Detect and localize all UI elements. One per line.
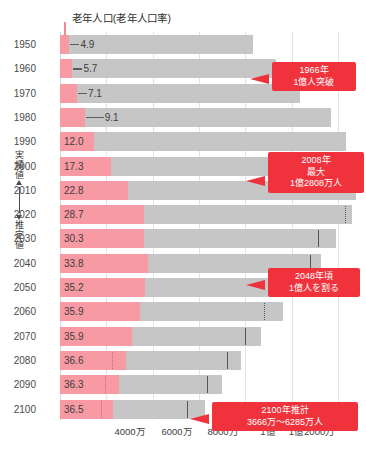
uncertainty-marker (264, 303, 266, 320)
y-axis-year-label: 1960 (2, 59, 36, 78)
annotation-callout[interactable]: 2048年頃1億人を割る (268, 268, 360, 297)
annotation-callout-line: 2008年 (274, 155, 358, 167)
elderly-rate-value: 30.3 (64, 229, 83, 248)
elderly-rate-value: 33.8 (64, 254, 83, 273)
uncertainty-marker-secondary (112, 352, 114, 369)
elderly-rate-value: 5.7 (83, 59, 97, 78)
y-axis-year-label: 2090 (2, 375, 36, 394)
value-leader-line (86, 117, 104, 118)
value-leader-line (78, 93, 87, 94)
chart-title: 老年人口(老年人口率) (72, 10, 171, 25)
annotation-callout-line: 1億2808万人 (274, 178, 358, 190)
y-axis-year-label: 2060 (2, 302, 36, 321)
uncertainty-marker (187, 401, 189, 418)
annotation-callout-pointer (246, 176, 265, 186)
annotation-callout-line: 最大 (274, 167, 358, 179)
other-population-segment (132, 327, 261, 346)
chart-row: 19504.9 (60, 35, 366, 54)
annotation-callout[interactable]: 2100年推計3666万～6285万人 (212, 402, 358, 431)
bar-group[interactable] (60, 327, 261, 346)
uncertainty-marker-secondary (105, 376, 107, 393)
other-population-segment (77, 84, 300, 103)
elderly-rate-value: 35.9 (64, 302, 83, 321)
bar-group[interactable] (60, 375, 222, 394)
elderly-population-segment (60, 59, 72, 78)
other-population-segment (94, 132, 346, 151)
bar-group[interactable] (60, 302, 283, 321)
annotation-callout-line: 1億人を割る (274, 283, 354, 295)
y-axis-year-label: 2010 (2, 181, 36, 200)
other-population-segment (140, 302, 283, 321)
y-axis-year-label: 1970 (2, 84, 36, 103)
annotation-callout-pointer (246, 280, 265, 290)
chart-row: 199012.0 (60, 132, 366, 151)
elderly-rate-value: 17.3 (64, 157, 83, 176)
elderly-rate-value: 36.5 (64, 400, 83, 419)
other-population-segment (85, 108, 331, 127)
elderly-rate-value: 9.1 (105, 108, 119, 127)
chart-row: 206035.9 (60, 302, 366, 321)
bar-group[interactable] (60, 351, 241, 370)
uncertainty-marker-secondary (101, 401, 103, 418)
elderly-rate-value: 28.7 (64, 205, 83, 224)
y-axis-year-label: 2070 (2, 327, 36, 346)
y-axis-year-label: 2080 (2, 351, 36, 370)
y-axis-year-label: 2050 (2, 278, 36, 297)
y-axis-year-label: 2040 (2, 254, 36, 273)
population-chart: 老年人口(老年人口率) 実績値 推定値 19504.919605.719707.… (0, 0, 366, 453)
chart-row: 19809.1 (60, 108, 366, 127)
elderly-rate-value: 4.9 (80, 35, 94, 54)
x-axis-tick-label: 4000万 (114, 424, 145, 438)
elderly-rate-value: 36.3 (64, 375, 83, 394)
value-leader-line (73, 68, 82, 69)
value-leader-line (70, 44, 79, 45)
annotation-callout-line: 2048年頃 (274, 271, 354, 283)
elderly-population-segment (60, 108, 85, 127)
y-axis-year-label: 1980 (2, 108, 36, 127)
chart-row: 209036.3 (60, 375, 366, 394)
y-axis-year-label: 2100 (2, 400, 36, 419)
annotation-callout[interactable]: 2008年最大1億2808万人 (268, 152, 364, 193)
other-population-segment (69, 35, 252, 54)
chart-row: 202028.7 (60, 205, 366, 224)
y-axis-year-label: 1990 (2, 132, 36, 151)
elderly-rate-value: 12.0 (64, 132, 83, 151)
elderly-rate-value: 22.8 (64, 181, 83, 200)
other-population-segment (144, 205, 352, 224)
annotation-callout-line: 1966年 (278, 65, 350, 77)
uncertainty-marker (227, 352, 229, 369)
annotation-callout-pointer (190, 414, 209, 424)
bar-group[interactable] (60, 229, 336, 248)
elderly-population-segment (60, 84, 77, 103)
uncertainty-marker (245, 328, 247, 345)
chart-row: 207035.9 (60, 327, 366, 346)
chart-row: 203030.3 (60, 229, 366, 248)
annotation-callout[interactable]: 1966年1億人突破 (272, 62, 356, 91)
uncertainty-marker (318, 230, 320, 247)
y-axis-year-label: 2020 (2, 205, 36, 224)
chart-row: 208036.6 (60, 351, 366, 370)
elderly-rate-value: 7.1 (88, 84, 102, 103)
y-axis-year-label: 2000 (2, 157, 36, 176)
other-population-segment (144, 229, 336, 248)
annotation-callout-line: 2100年推計 (218, 405, 352, 417)
uncertainty-marker (345, 206, 347, 223)
elderly-rate-value: 36.6 (64, 351, 83, 370)
bar-group[interactable] (60, 132, 346, 151)
elderly-rate-value: 35.2 (64, 278, 83, 297)
bar-group[interactable] (60, 205, 352, 224)
bar-group[interactable] (60, 278, 302, 297)
y-axis-year-label: 1950 (2, 35, 36, 54)
y-axis-year-label: 2030 (2, 229, 36, 248)
uncertainty-marker (207, 376, 209, 393)
other-population-segment (126, 351, 240, 370)
annotation-callout-line: 1億人突破 (278, 77, 350, 89)
annotation-callout-pointer (250, 74, 269, 84)
elderly-population-segment (60, 35, 69, 54)
elderly-rate-value: 35.9 (64, 327, 83, 346)
x-axis-tick-label: 6000万 (161, 424, 192, 438)
other-population-segment (72, 59, 276, 78)
annotation-callout-line: 3666万～6285万人 (218, 417, 352, 429)
